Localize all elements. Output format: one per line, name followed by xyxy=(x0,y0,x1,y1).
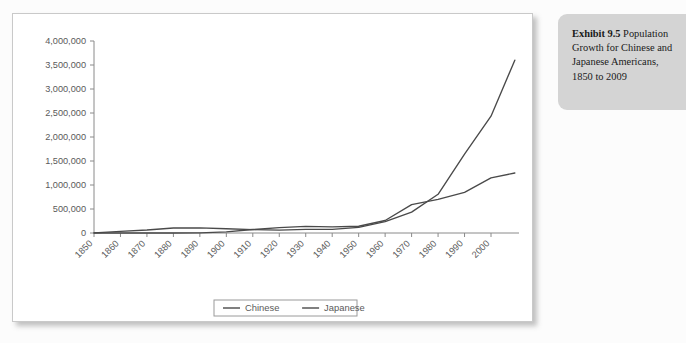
x-axis-tick-label: 1930 xyxy=(285,238,307,260)
exhibit-caption-lead: Exhibit 9.5 xyxy=(572,28,621,39)
x-axis-tick-label: 1870 xyxy=(126,238,148,260)
legend-label-chinese[interactable]: Chinese xyxy=(245,302,279,313)
x-axis-tick-label: 1990 xyxy=(443,238,465,260)
series-line-japanese xyxy=(94,173,515,233)
y-axis-tick-label: 2,000,000 xyxy=(45,132,86,142)
x-axis-tick-label: 1940 xyxy=(311,238,333,260)
line-chart: 4,000,0003,500,0003,000,0002,500,0002,00… xyxy=(13,14,532,321)
y-axis-tick-label: 4,000,000 xyxy=(45,36,86,46)
x-axis-tick-label: 1960 xyxy=(364,238,386,260)
series-line-chinese xyxy=(94,60,515,233)
x-axis-tick-label: 1900 xyxy=(205,238,227,260)
chart-panel: 4,000,0003,500,0003,000,0002,500,0002,00… xyxy=(12,13,533,322)
y-axis-tick-group: 4,000,0003,500,0003,000,0002,500,0002,00… xyxy=(45,36,94,238)
x-axis-tick-label: 1850 xyxy=(73,238,95,260)
x-axis-tick-label: 1890 xyxy=(179,238,201,260)
exhibit-caption-text: Exhibit 9.5 Population Growth for Chines… xyxy=(572,27,678,84)
x-axis-tick-label: 1970 xyxy=(390,238,412,260)
exhibit-caption-box: Exhibit 9.5 Population Growth for Chines… xyxy=(558,14,686,110)
y-axis-tick-label: 1,500,000 xyxy=(45,156,86,166)
legend-label-japanese[interactable]: Japanese xyxy=(324,302,365,313)
y-axis-tick-label: 2,500,000 xyxy=(45,108,86,118)
y-axis-tick-label: 3,500,000 xyxy=(45,60,86,70)
y-axis-tick-label: 1,000,000 xyxy=(45,180,86,190)
x-axis-tick-label: 1950 xyxy=(338,238,360,260)
x-axis-tick-label: 1860 xyxy=(99,238,121,260)
x-axis-tick-label: 1920 xyxy=(258,238,280,260)
x-axis-tick-label: 2000 xyxy=(470,238,492,260)
x-axis-tick-label: 1880 xyxy=(152,238,174,260)
chart-legend[interactable]: ChineseJapanese xyxy=(214,300,365,316)
series-group xyxy=(94,60,515,233)
x-axis-tick-label: 1910 xyxy=(232,238,254,260)
x-axis-tick-group: 1850186018701880189019001910192019301940… xyxy=(73,233,492,260)
y-axis-tick-label: 500,000 xyxy=(53,204,86,214)
y-axis-tick-label: 0 xyxy=(81,228,86,238)
y-axis-tick-label: 3,000,000 xyxy=(45,84,86,94)
x-axis-tick-label: 1980 xyxy=(417,238,439,260)
